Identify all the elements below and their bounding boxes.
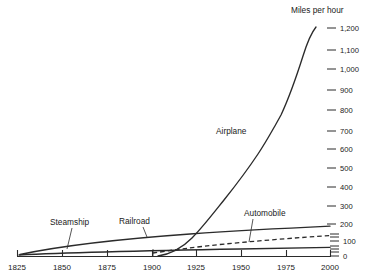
x-tick-label-1975: 1975 — [277, 263, 295, 272]
speed-of-travel-line-chart: Miles per hour 1,200 1,100 1,000 900 800… — [0, 0, 369, 277]
x-tick-label-1950: 1950 — [232, 263, 250, 272]
series-label-railroad: Railroad — [119, 216, 150, 226]
y-tick-label-800: 800 — [340, 106, 353, 115]
y-tick-label-200: 200 — [340, 220, 353, 229]
y-tick-label-900: 900 — [340, 86, 353, 95]
x-tick-label-2000: 2000 — [321, 263, 339, 272]
x-tick-label-1875: 1875 — [98, 263, 116, 272]
annotation-automobile: Automobile — [244, 208, 286, 242]
x-tick-label-1850: 1850 — [53, 263, 71, 272]
annotation-railroad: Railroad — [119, 216, 150, 237]
y-tick-label-0: 0 — [343, 252, 347, 261]
y-axis-title: Miles per hour — [291, 5, 344, 15]
chart-container: Miles per hour 1,200 1,100 1,000 900 800… — [0, 0, 369, 277]
y-tick-label-1000: 1,000 — [340, 65, 359, 74]
y-tick-label-100: 100 — [343, 237, 356, 246]
y-tick-label-300: 300 — [340, 202, 353, 211]
y-tick-label-700: 700 — [340, 127, 353, 136]
y-tick-label-400: 400 — [340, 183, 353, 192]
leader-line-railroad — [143, 227, 147, 237]
series-label-automobile: Automobile — [244, 208, 286, 218]
x-tick-label-1900: 1900 — [143, 263, 161, 272]
y-tick-label-1200: 1,200 — [340, 24, 359, 33]
x-tick-label-1825: 1825 — [8, 263, 26, 272]
annotation-airplane: Airplane — [216, 126, 247, 136]
y-tick-label-500: 500 — [340, 164, 353, 173]
y-tick-label-1100: 1,100 — [340, 46, 359, 55]
series-line-airplane — [158, 27, 316, 256]
y-tick-label-600: 600 — [340, 145, 353, 154]
series-label-steamship: Steamship — [50, 217, 90, 227]
y-axis-ticks: 1,200 1,100 1,000 900 800 700 600 500 40… — [327, 24, 359, 261]
series-label-airplane: Airplane — [216, 126, 247, 136]
x-tick-label-1925: 1925 — [187, 263, 205, 272]
